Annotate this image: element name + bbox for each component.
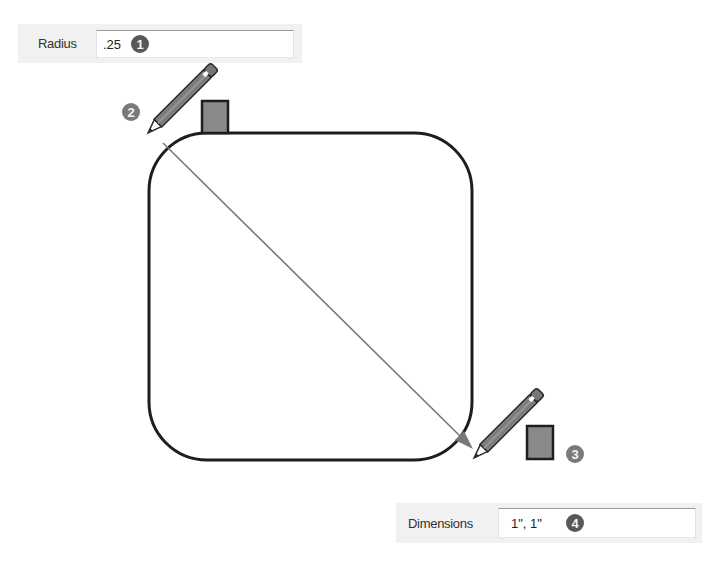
dimensions-value: 1", 1": [511, 516, 542, 531]
rounded-rectangle-shape[interactable]: [149, 133, 472, 460]
inference-square-icon: [527, 426, 553, 459]
dimensions-label: Dimensions: [408, 516, 473, 531]
step-badge-3: 3: [566, 445, 584, 463]
dimensions-input[interactable]: 1", 1": [498, 508, 696, 538]
inference-square-icon: [202, 101, 228, 133]
step-badge-2: 2: [122, 103, 140, 121]
radius-label: Radius: [38, 36, 77, 51]
step-badge-1: 1: [131, 35, 149, 53]
radius-input[interactable]: .25: [96, 30, 294, 58]
radius-measurement-box: Radius .25 1: [18, 24, 302, 63]
dimensions-measurement-box: Dimensions 1", 1" 4: [396, 503, 702, 543]
radius-value: .25: [103, 37, 121, 52]
step-badge-4: 4: [566, 514, 584, 532]
drag-arrow: [163, 143, 473, 449]
drawing-canvas[interactable]: [0, 0, 720, 565]
